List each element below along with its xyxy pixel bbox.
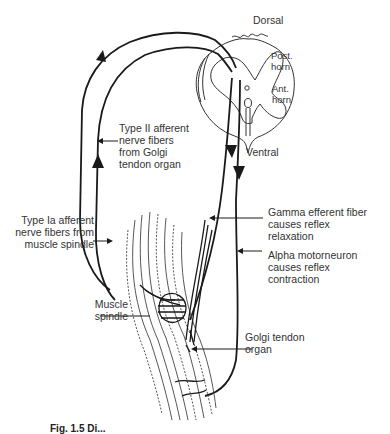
type2-afferent-label: Type II afferent nerve fibers from Golgi… [119,122,189,170]
muscle-spindle-label: Muscle spindle [60,298,128,322]
gamma-efferent-label: Gamma efferent fiber causes reflex relax… [268,206,367,242]
golgi-tendon-organ-label: Golgi tendon organ [245,331,305,355]
type1a-afferent-label: Type Ia afferent nerve fibers from muscl… [6,214,94,250]
figure-caption: Fig. 1.5 Di... [50,423,106,434]
ventral-label: Ventral [246,146,279,158]
dorsal-label: Dorsal [253,14,283,26]
posterior-horn-label: Post. horn [271,50,293,72]
anterior-horn-label: Ant. horn [272,83,291,105]
alpha-motorneuron-label: Alpha motorneuron causes reflex contract… [268,249,357,285]
